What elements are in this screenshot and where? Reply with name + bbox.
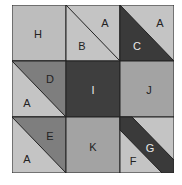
label-c: C xyxy=(133,40,141,52)
patch-ac xyxy=(120,5,174,61)
patch-da xyxy=(12,61,66,117)
label-b: B xyxy=(78,40,85,52)
label-f: F xyxy=(130,155,137,167)
label-a-top-right: A xyxy=(156,17,164,29)
label-a-bottom-left: A xyxy=(23,153,31,165)
patch-ab xyxy=(66,5,120,61)
label-g: G xyxy=(146,142,155,154)
label-h: H xyxy=(34,28,42,40)
label-a-top-middle: A xyxy=(101,17,109,29)
label-i: I xyxy=(91,84,94,96)
label-a-mid-left: A xyxy=(23,97,31,109)
label-d: D xyxy=(46,73,54,85)
patch-ea xyxy=(12,117,66,173)
label-e: E xyxy=(46,130,53,142)
label-j: J xyxy=(146,84,152,96)
quilt-block-diagram: H A B A C D A I J E A K G F xyxy=(12,5,174,173)
label-k: K xyxy=(89,141,97,153)
